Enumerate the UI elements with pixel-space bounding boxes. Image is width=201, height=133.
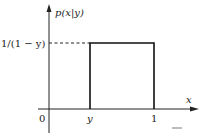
density-rectangle [90, 43, 154, 109]
origin-label: 0 [39, 113, 45, 124]
y-axis-arrow-icon [47, 4, 52, 12]
uniform-density-diagram: p(x|y) 1/(1 − y) x 0 y 1 [0, 0, 201, 133]
x-axis-arrow-icon [190, 107, 199, 112]
caption-fragment [172, 127, 182, 129]
tick-label-y: y [86, 113, 93, 124]
tick-label-one: 1 [151, 113, 157, 124]
y-level-label: 1/(1 − y) [1, 38, 45, 49]
x-axis-label: x [186, 94, 192, 105]
y-axis-label: p(x|y) [55, 7, 84, 19]
